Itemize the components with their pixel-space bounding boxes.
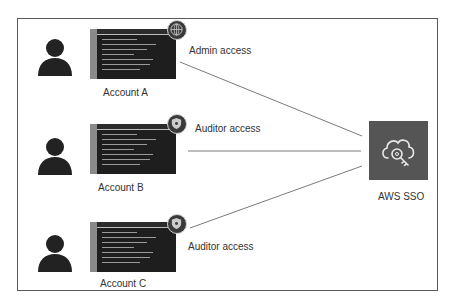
account-b-label: Account B <box>98 182 144 193</box>
user-icon <box>37 234 73 274</box>
globe-icon <box>167 20 187 40</box>
account-c-console-screen <box>90 222 176 272</box>
user-icon <box>37 38 73 78</box>
shield-badge-icon <box>167 214 187 234</box>
auditor-access-label-c: Auditor access <box>188 241 254 252</box>
admin-access-label: Admin access <box>189 45 251 56</box>
aws-sso-service-box <box>369 121 428 180</box>
account-c-label: Account C <box>100 278 146 289</box>
user-icon <box>37 137 73 177</box>
account-b-console-screen <box>90 124 176 174</box>
aws-sso-label: AWS SSO <box>378 191 424 202</box>
cloud-key-icon <box>378 130 419 171</box>
account-a-console-screen <box>90 29 176 79</box>
account-a-label: Account A <box>103 87 148 98</box>
auditor-access-label-b: Auditor access <box>195 123 261 134</box>
shield-badge-icon <box>167 114 187 134</box>
